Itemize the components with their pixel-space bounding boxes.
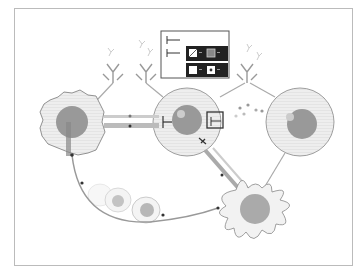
cytokine-dots xyxy=(234,103,263,117)
boxed-square-icon xyxy=(207,49,215,57)
white-square-icon xyxy=(189,66,197,74)
legend-box xyxy=(161,31,229,78)
dendritic-cell xyxy=(219,180,289,238)
right-cell xyxy=(266,88,334,156)
immune-diagram xyxy=(0,0,364,271)
center-t-cell xyxy=(153,88,223,156)
dying-cells xyxy=(88,184,160,223)
synapse-bars xyxy=(104,115,159,129)
tumor-cell xyxy=(40,90,105,156)
